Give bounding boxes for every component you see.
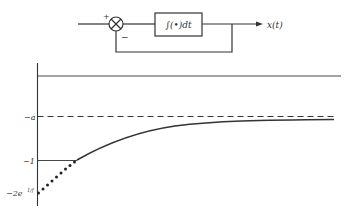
plus-sign: + [103, 12, 110, 21]
graph [37, 63, 341, 206]
arrow-head-icon [256, 22, 263, 27]
minus-sign: − [121, 32, 129, 42]
output-label: x(t) [267, 20, 283, 30]
response-curve [77, 120, 334, 161]
integrator-label: ∫(•)dt [165, 20, 192, 30]
figure: + − ∫(•)dt x(t) −a −1 −2e 1/f [0, 0, 350, 212]
label-neg-a: −a [24, 113, 36, 122]
label-neg-2e-exponent: 1/f [27, 187, 35, 194]
summing-junction-icon [109, 17, 123, 31]
dotted-curve [37, 161, 76, 195]
label-neg-2e: −2e [6, 189, 23, 198]
label-neg-one: −1 [23, 157, 35, 166]
